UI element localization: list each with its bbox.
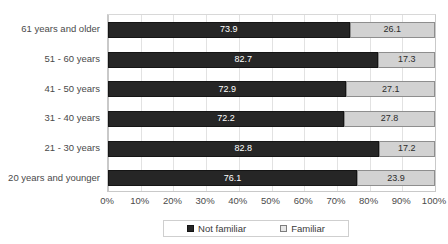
bar-value-label: 17.3 bbox=[398, 54, 416, 64]
chart-legend: Not familiar Familiar bbox=[163, 220, 349, 237]
tick-label: 100% bbox=[422, 195, 446, 207]
bar-row: 82.817.2 bbox=[108, 141, 435, 157]
category-label: 51 - 60 years bbox=[0, 53, 100, 64]
bar-value-label: 82.8 bbox=[235, 143, 253, 153]
bar-value-label: 26.1 bbox=[384, 24, 402, 34]
bar-segment-familiar[interactable]: 27.8 bbox=[344, 111, 435, 127]
bar-segment-familiar[interactable]: 26.1 bbox=[350, 22, 435, 38]
bar-segment-not-familiar[interactable]: 76.1 bbox=[108, 170, 357, 186]
bar-segment-not-familiar[interactable]: 73.9 bbox=[108, 22, 350, 38]
tick-label: 50% bbox=[261, 195, 280, 207]
bar-value-label: 27.8 bbox=[381, 113, 399, 123]
tick-label: 40% bbox=[228, 195, 247, 207]
category-label: 20 years and younger bbox=[0, 172, 100, 183]
stacked-bar-chart: 61 years and older51 - 60 years41 - 50 y… bbox=[0, 0, 448, 244]
tick-label: 60% bbox=[294, 195, 313, 207]
bar-row: 76.123.9 bbox=[108, 170, 435, 186]
bar-value-label: 23.9 bbox=[387, 173, 405, 183]
bar-segment-familiar[interactable]: 17.2 bbox=[379, 141, 435, 157]
legend-item-not-familiar[interactable]: Not familiar bbox=[187, 223, 246, 234]
value-axis-tick-labels: 0%10%20%30%40%50%60%70%80%90%100% bbox=[107, 195, 436, 209]
chart-title bbox=[0, 0, 448, 2]
gridline bbox=[435, 15, 436, 191]
bar-segment-not-familiar[interactable]: 82.8 bbox=[108, 141, 379, 157]
category-label: 31 - 40 years bbox=[0, 112, 100, 123]
bar-value-label: 17.2 bbox=[398, 143, 416, 153]
bar-value-label: 73.9 bbox=[220, 24, 238, 34]
bar-row: 72.927.1 bbox=[108, 81, 435, 97]
bar-segment-not-familiar[interactable]: 72.9 bbox=[108, 81, 346, 97]
tick-label: 0% bbox=[100, 195, 114, 207]
tick-label: 30% bbox=[196, 195, 215, 207]
plot-area: 73.926.182.717.372.927.172.227.882.817.2… bbox=[107, 14, 436, 192]
tick-label: 80% bbox=[359, 195, 378, 207]
light-square-icon bbox=[280, 225, 287, 232]
bar-segment-familiar[interactable]: 23.9 bbox=[357, 170, 435, 186]
bar-value-label: 72.9 bbox=[218, 84, 236, 94]
category-label: 41 - 50 years bbox=[0, 83, 100, 94]
tick-label: 20% bbox=[163, 195, 182, 207]
bar-row: 82.717.3 bbox=[108, 52, 435, 68]
tick-label: 70% bbox=[326, 195, 345, 207]
dark-square-icon bbox=[187, 225, 194, 232]
bar-value-label: 72.2 bbox=[217, 113, 235, 123]
bar-segment-familiar[interactable]: 27.1 bbox=[346, 81, 435, 97]
legend-label: Familiar bbox=[291, 223, 325, 234]
bar-value-label: 27.1 bbox=[382, 84, 400, 94]
category-axis-labels: 61 years and older51 - 60 years41 - 50 y… bbox=[0, 14, 104, 192]
bar-series-container: 73.926.182.717.372.927.172.227.882.817.2… bbox=[108, 15, 435, 191]
bar-segment-familiar[interactable]: 17.3 bbox=[378, 52, 435, 68]
legend-label: Not familiar bbox=[198, 223, 246, 234]
bar-segment-not-familiar[interactable]: 82.7 bbox=[108, 52, 378, 68]
tick-label: 90% bbox=[392, 195, 411, 207]
legend-item-familiar[interactable]: Familiar bbox=[280, 223, 325, 234]
category-label: 21 - 30 years bbox=[0, 142, 100, 153]
bar-row: 72.227.8 bbox=[108, 111, 435, 127]
bar-row: 73.926.1 bbox=[108, 22, 435, 38]
bar-segment-not-familiar[interactable]: 72.2 bbox=[108, 111, 344, 127]
category-label: 61 years and older bbox=[0, 23, 100, 34]
bar-value-label: 76.1 bbox=[224, 173, 242, 183]
tick-label: 10% bbox=[130, 195, 149, 207]
bar-value-label: 82.7 bbox=[234, 54, 252, 64]
